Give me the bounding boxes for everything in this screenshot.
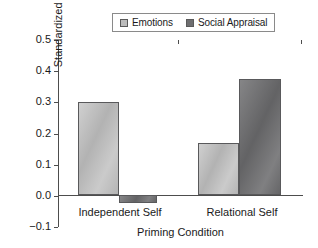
plot-area: 0.5 0.4 0.3 0.2 0.1 0.0 −0.1 xyxy=(58,40,303,227)
x-group-label-relational-self: Relational Self xyxy=(172,206,312,219)
zero-baseline xyxy=(58,195,303,196)
bar-emotions-independent-self xyxy=(78,102,119,195)
bar-chart-figure: Emotions Social Appraisal 0.5 0.4 0.3 0.… xyxy=(0,0,318,248)
x-group-label-independent-self: Independent Self xyxy=(50,206,190,219)
y-tick-label-4: 0.1 xyxy=(36,158,51,171)
legend-entry-emotions: Emotions xyxy=(120,18,173,28)
y-tick-label-5: 0.0 xyxy=(36,189,51,202)
legend-label-emotions: Emotions xyxy=(132,18,173,28)
bar-social-appraisal-independent-self xyxy=(119,195,157,203)
y-tick-label-0: 0.5 xyxy=(36,33,51,46)
legend-swatch-social-appraisal xyxy=(186,19,194,27)
y-axis-title: Standardized Beta xyxy=(52,0,65,87)
chart-legend: Emotions Social Appraisal xyxy=(112,13,275,32)
x-tick-middle xyxy=(178,40,179,44)
bar-social-appraisal-relational-self xyxy=(239,79,281,195)
legend-entry-social-appraisal: Social Appraisal xyxy=(186,18,268,28)
x-tick-right xyxy=(301,40,302,44)
y-tick-label-2: 0.3 xyxy=(36,95,51,108)
x-axis-title: Priming Condition xyxy=(58,226,303,239)
y-tick-label-6: −0.1 xyxy=(29,220,51,233)
y-tick-label-3: 0.2 xyxy=(36,127,51,140)
y-tick-label-1: 0.4 xyxy=(36,64,51,77)
legend-label-social-appraisal: Social Appraisal xyxy=(198,18,268,28)
legend-swatch-emotions xyxy=(120,19,128,27)
bar-emotions-relational-self xyxy=(198,143,239,195)
